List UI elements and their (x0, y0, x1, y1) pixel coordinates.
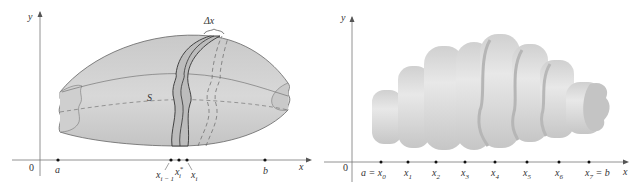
origin-label: 0 (29, 163, 34, 173)
y-axis-label: y (341, 13, 345, 23)
x-axis-label: x (299, 162, 303, 172)
cylindrical-slabs (372, 34, 610, 150)
tick-label-xi-minus-1: xi − 1 (156, 170, 174, 183)
tick-label-x6: x6 (555, 168, 563, 181)
delta-x-label: Δx (204, 16, 214, 26)
solid-slab-figure: y x 0 S Δx a xi − 1 x*i xi b (0, 0, 320, 191)
y-axis-label: y (28, 12, 32, 22)
origin-label: 0 (343, 163, 348, 173)
solid-label: S (147, 93, 152, 103)
tick-label-x4: x4 (491, 168, 499, 181)
tick-label-x2: x2 (432, 168, 440, 181)
tick-label-x7: x7 = b (585, 168, 610, 181)
cylinder-slabs-drawing (320, 0, 641, 191)
solid-slab-drawing (0, 0, 320, 191)
tick-label-x3: x3 (461, 168, 469, 181)
tick-label-xi: xi (191, 170, 197, 183)
tick-label-xi-star: x*i (175, 166, 181, 180)
tick-label-x1: x1 (404, 168, 412, 181)
tick-label-x5: x5 (523, 168, 531, 181)
tick-label-b: b (263, 166, 268, 176)
x-axis-label: x (623, 167, 627, 177)
tick-label-x0: a = x0 (361, 168, 386, 181)
tick-label-a: a (55, 165, 60, 175)
cylinder-approximation-figure: y x 0 a = x0 x1 x2 x3 x4 x5 x6 x7 = b (320, 0, 641, 191)
